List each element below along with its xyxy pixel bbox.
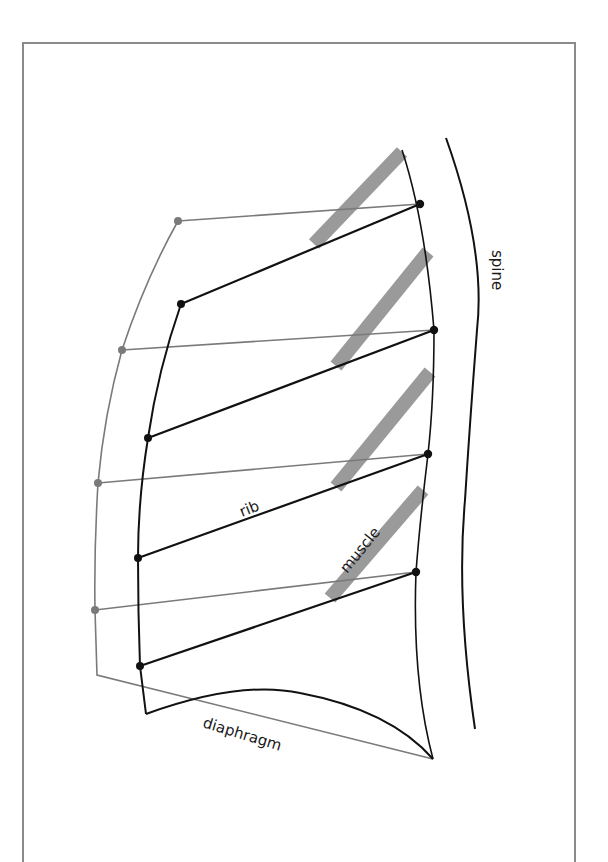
black-joint-dot xyxy=(136,662,144,670)
black-joint-dot xyxy=(412,568,420,576)
gray-joint-dot xyxy=(91,606,99,614)
diaphragm-label: diaphragm xyxy=(201,714,284,755)
gray-ribs-inhaled xyxy=(95,204,434,610)
black-sternum-arc xyxy=(138,304,181,714)
gray-rib-4 xyxy=(95,572,416,610)
black-ribs-exhaled xyxy=(138,204,434,666)
gray-rib-3 xyxy=(98,454,428,483)
black-joint-dot xyxy=(424,450,432,458)
black-joint-dot xyxy=(177,300,185,308)
black-rib-4 xyxy=(140,572,416,666)
spine-curve xyxy=(446,138,479,729)
gray-joint-dot xyxy=(174,217,182,225)
rib-label: rib xyxy=(237,497,262,521)
black-joint-dot xyxy=(430,326,438,334)
gray-joint-dot xyxy=(94,479,102,487)
black-joint-dot xyxy=(144,434,152,442)
gray-joint-dot xyxy=(118,346,126,354)
spine-label: spine xyxy=(488,250,506,290)
muscle-band-4 xyxy=(330,490,423,598)
black-joint-dot xyxy=(416,200,424,208)
black-joint-dot xyxy=(134,554,142,562)
